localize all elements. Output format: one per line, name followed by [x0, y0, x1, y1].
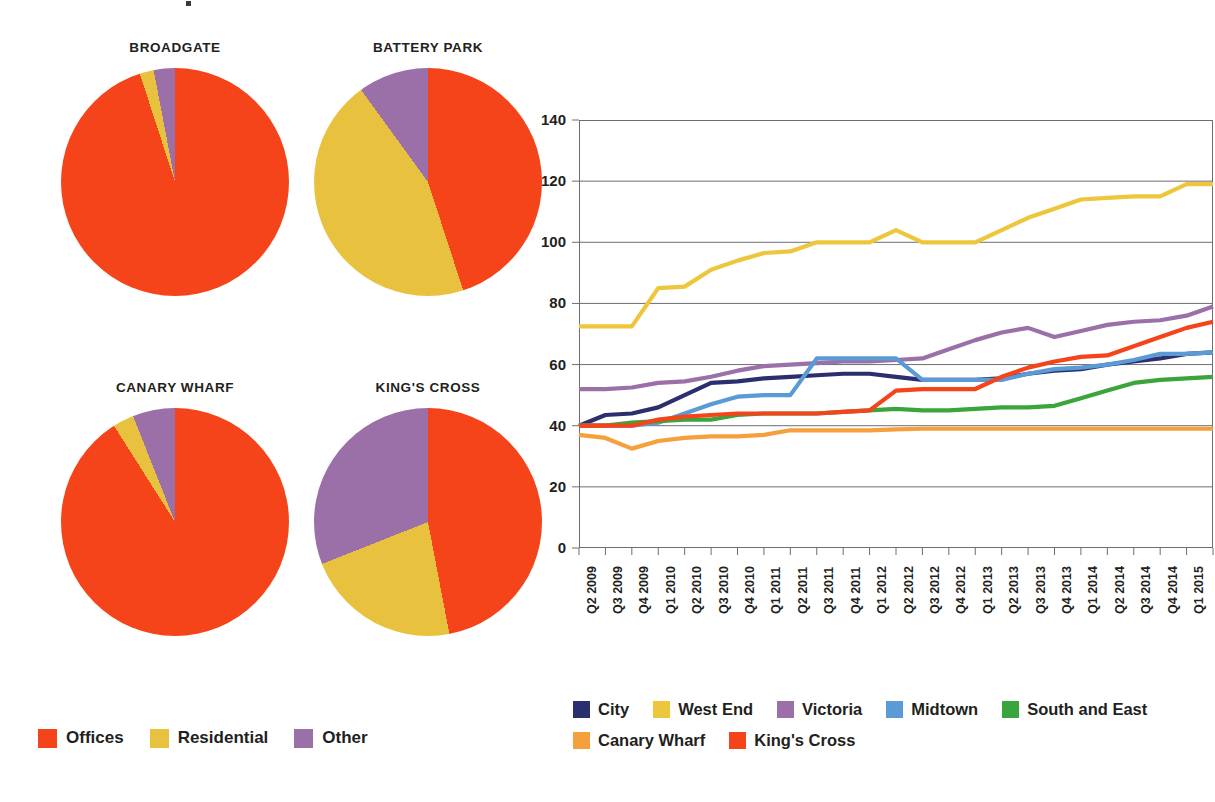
y-axis-tick-label: 60	[540, 356, 566, 373]
x-axis-tick-label: Q1 2014	[1086, 566, 1100, 614]
line-legend-label: Canary Wharf	[598, 731, 705, 750]
x-axis-tick-label: Q1 2013	[981, 566, 995, 614]
line-legend-label: City	[598, 700, 629, 719]
x-axis-tick-label: Q1 2010	[664, 566, 678, 614]
pie-legend-item: Other	[294, 728, 367, 748]
pie-chart-battery-park: BATTERY PARK	[285, 40, 571, 340]
x-axis-tick-label: Q3 2014	[1139, 566, 1153, 614]
line-legend-row-2: Canary WharfKing's Cross	[573, 731, 1193, 750]
pie-disc-broadgate	[61, 68, 289, 296]
pie-chart-broadgate: BROADGATE	[32, 40, 318, 340]
pie-legend-label: Other	[322, 728, 367, 748]
x-axis-ticks	[579, 548, 1213, 555]
y-axis-tick-label: 100	[540, 233, 566, 250]
x-axis-tick-label: Q4 2012	[954, 566, 968, 614]
x-axis-tick-label: Q3 2009	[611, 566, 625, 614]
pie-legend-swatch	[38, 729, 57, 748]
line-legend-item: Midtown	[886, 700, 978, 719]
x-axis-tick-label: Q4 2014	[1166, 566, 1180, 614]
pie-legend-swatch	[294, 729, 313, 748]
line-legend-swatch	[653, 701, 670, 718]
pie-chart-canary-wharf: CANARY WHARF	[32, 380, 318, 680]
line-legend-item: South and East	[1002, 700, 1147, 719]
pie-legend-label: Offices	[66, 728, 124, 748]
line-legend-item: Victoria	[777, 700, 862, 719]
pie-title-broadgate: BROADGATE	[32, 40, 318, 55]
pie-disc-kings-cross	[314, 408, 542, 636]
y-axis-tick-label: 40	[540, 417, 566, 434]
plot-frame	[580, 121, 1213, 548]
x-axis-tick-label: Q1 2011	[769, 567, 783, 614]
pie-title-canary-wharf: CANARY WHARF	[32, 380, 318, 395]
pie-title-kings-cross: KING'S CROSS	[285, 380, 571, 395]
y-axis-tick-label: 140	[540, 111, 566, 128]
line-legend-swatch	[729, 732, 746, 749]
y-axis-tick-label: 80	[540, 294, 566, 311]
line-legend-label: King's Cross	[754, 731, 855, 750]
line-legend-swatch	[886, 701, 903, 718]
pie-title-battery-park: BATTERY PARK	[285, 40, 571, 55]
x-axis-tick-label: Q4 2010	[743, 566, 757, 614]
line-legend-row-1: CityWest EndVictoriaMidtownSouth and Eas…	[573, 700, 1193, 719]
pie-legend-label: Residential	[178, 728, 269, 748]
x-axis-tick-label: Q4 2009	[637, 566, 651, 614]
line-legend-label: Midtown	[911, 700, 978, 719]
pie-disc-battery-park	[314, 68, 542, 296]
y-axis-tick-label: 0	[540, 539, 566, 556]
pie-legend: OfficesResidentialOther	[38, 728, 368, 748]
x-axis-tick-label: Q4 2011	[849, 567, 863, 614]
line-legend-label: Victoria	[802, 700, 862, 719]
x-axis-tick-label: Q3 2011	[822, 567, 836, 614]
line-legend-item: City	[573, 700, 629, 719]
line-legend-swatch	[573, 732, 590, 749]
pie-legend-swatch	[150, 729, 169, 748]
x-axis-tick-label: Q1 2012	[875, 566, 889, 614]
x-axis-tick-label: Q1 2015	[1192, 566, 1206, 614]
line-chart-plot-area	[579, 120, 1213, 548]
pie-chart-kings-cross: KING'S CROSS	[285, 380, 571, 680]
pie-legend-item: Residential	[150, 728, 269, 748]
line-legend-swatch	[1002, 701, 1019, 718]
x-axis-tick-label: Q2 2012	[902, 566, 916, 614]
line-legend-item: King's Cross	[729, 731, 855, 750]
line-legend-item: Canary Wharf	[573, 731, 705, 750]
x-axis-tick-label: Q3 2013	[1034, 566, 1048, 614]
x-axis-tick-label: Q2 2013	[1007, 566, 1021, 614]
line-legend-label: South and East	[1027, 700, 1147, 719]
y-axis-tick-label: 120	[540, 172, 566, 189]
line-legend-swatch	[573, 701, 590, 718]
line-chart-panel: 020406080100120140 Q2 2009Q3 2009Q4 2009…	[540, 0, 1215, 802]
x-axis-tick-label: Q3 2010	[717, 566, 731, 614]
y-axis-tick-label: 20	[540, 478, 566, 495]
x-axis-tick-label: Q2 2014	[1113, 566, 1127, 614]
pie-legend-item: Offices	[38, 728, 124, 748]
pie-disc-canary-wharf	[61, 408, 289, 636]
line-legend-label: West End	[678, 700, 753, 719]
line-legend-swatch	[777, 701, 794, 718]
line-chart-legend: CityWest EndVictoriaMidtownSouth and Eas…	[573, 700, 1193, 762]
pie-charts-panel: BROADGATE BATTERY PARK CANARY WHARF KING…	[0, 0, 540, 802]
x-axis-tick-label: Q3 2012	[928, 566, 942, 614]
x-axis-tick-label: Q4 2013	[1060, 566, 1074, 614]
x-axis-tick-label: Q2 2010	[690, 566, 704, 614]
x-axis-tick-label: Q2 2009	[585, 566, 599, 614]
x-axis-tick-label: Q2 2011	[796, 567, 810, 614]
line-chart-svg	[579, 120, 1213, 548]
line-legend-item: West End	[653, 700, 753, 719]
